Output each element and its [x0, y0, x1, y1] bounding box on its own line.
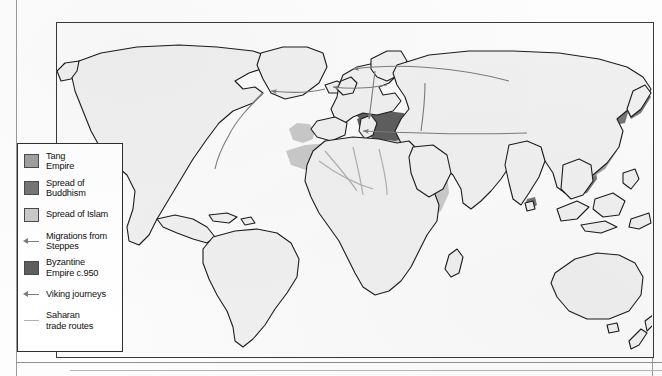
legend-label-migrations-from-steppes: Migrations from Steppes: [46, 231, 107, 252]
landmass-philippines: [623, 169, 639, 189]
legend-item-migrations-from-steppes[interactable]: Migrations from Steppes: [23, 231, 117, 252]
landmass-madagascar: [445, 249, 463, 277]
landmass-sri-lanka: [525, 201, 535, 211]
legend-label-saharan-trade-routes: Saharan trade routes: [46, 310, 93, 331]
left-arrow-icon: [23, 290, 40, 299]
map-legend: Tang Empire Spread of Buddhism Spread of…: [17, 143, 123, 352]
legend-item-spread-of-islam[interactable]: Spread of Islam: [23, 205, 117, 225]
legend-item-byzantine-empire[interactable]: Byzantine Empire c.950: [23, 257, 117, 278]
left-arrow-icon: [23, 237, 40, 246]
landmass-south-america: [203, 229, 299, 347]
region-spread-of-islam: [289, 123, 315, 143]
landmass-borneo: [593, 193, 625, 217]
legend-item-spread-of-buddhism[interactable]: Spread of Buddhism: [23, 178, 117, 199]
legend-item-saharan-trade-routes[interactable]: Saharan trade routes: [23, 310, 117, 331]
legend-key-spread-of-buddhism: [23, 181, 40, 196]
landmass-caribbean: [209, 213, 237, 223]
legend-key-byzantine-empire: [23, 260, 40, 275]
legend-label-spread-of-buddhism: Spread of Buddhism: [46, 178, 86, 199]
landmass-australia: [551, 253, 643, 319]
color-swatch-byzantine-empire: [24, 261, 39, 275]
line-icon: [23, 316, 40, 325]
map-graphic: .land { fill:#f0f0f0; stroke:#1c1c1c; st…: [57, 23, 652, 356]
landmasses: [57, 45, 652, 349]
landmass-new-guinea: [629, 213, 651, 229]
legend-key-saharan-trade-routes: [23, 313, 40, 328]
landmass-new-zealand-north: [645, 315, 652, 331]
legend-key-migrations-from-steppes: [23, 234, 40, 249]
landmass-sumatra: [557, 201, 589, 221]
legend-item-tang-empire[interactable]: Tang Empire: [23, 151, 117, 172]
landmass-java: [581, 221, 617, 233]
landmass-tasmania: [607, 323, 619, 333]
world-map: .land { fill:#f0f0f0; stroke:#1c1c1c; st…: [56, 22, 654, 358]
landmass-india: [505, 141, 545, 205]
landmass-caribbean-2: [241, 217, 255, 225]
color-swatch-tang-empire: [24, 154, 39, 168]
legend-item-viking-journeys[interactable]: Viking journeys: [23, 284, 117, 304]
page-bottom-rule: [16, 362, 662, 363]
legend-label-byzantine-empire: Byzantine Empire c.950: [46, 257, 98, 278]
page-bottom-rule-2: [70, 370, 662, 371]
legend-label-viking-journeys: Viking journeys: [46, 289, 106, 299]
landmass-iberia: [311, 117, 347, 141]
landmass-indochina: [561, 159, 593, 199]
scanned-page: .land { fill:#f0f0f0; stroke:#1c1c1c; st…: [0, 0, 662, 376]
landmass-new-zealand: [629, 329, 647, 349]
legend-label-tang-empire: Tang Empire: [46, 151, 74, 172]
legend-key-viking-journeys: [23, 287, 40, 302]
color-swatch-spread-of-buddhism: [24, 181, 39, 195]
legend-key-spread-of-islam: [23, 207, 40, 222]
legend-key-tang-empire: [23, 154, 40, 169]
landmass-central-america: [157, 215, 215, 243]
legend-label-spread-of-islam: Spread of Islam: [46, 209, 108, 219]
color-swatch-spread-of-islam: [24, 208, 39, 222]
